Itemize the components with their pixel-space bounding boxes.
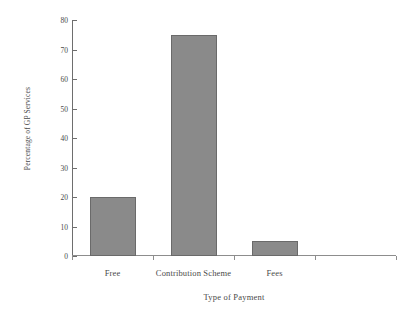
y-axis-title: Percentage of GP Services — [20, 0, 36, 256]
y-tick-mark — [73, 256, 77, 257]
y-tick-label: 50 — [61, 104, 69, 113]
y-tick-label: 0 — [64, 252, 68, 261]
x-axis-title: Type of Payment — [72, 292, 396, 302]
x-tick-label: Fees — [266, 268, 282, 278]
y-tick-label: 20 — [61, 193, 69, 202]
y-tick-label: 10 — [61, 222, 69, 231]
y-tick-mark — [73, 138, 77, 139]
x-tick-mark — [234, 256, 235, 260]
x-tick-mark — [396, 256, 397, 260]
y-axis-title-text: Percentage of GP Services — [24, 86, 33, 169]
bar — [171, 35, 217, 256]
bar — [252, 241, 298, 256]
x-tick-mark — [72, 256, 73, 260]
x-tick-label: Contribution Scheme — [156, 268, 231, 278]
y-tick-mark — [73, 50, 77, 51]
x-tick-mark — [315, 256, 316, 260]
y-tick-mark — [73, 20, 77, 21]
y-tick-label: 80 — [61, 16, 69, 25]
y-tick-mark — [73, 168, 77, 169]
y-tick-mark — [73, 197, 77, 198]
y-tick-label: 30 — [61, 163, 69, 172]
y-tick-label: 40 — [61, 134, 69, 143]
y-tick-mark — [73, 79, 77, 80]
x-tick-mark — [153, 256, 154, 260]
bar-chart-figure: Percentage of GP Services 01020304050607… — [0, 0, 414, 319]
x-tick-label: Free — [105, 268, 121, 278]
y-tick-label: 70 — [61, 45, 69, 54]
y-tick-label: 60 — [61, 75, 69, 84]
bar — [90, 197, 136, 256]
y-tick-mark — [73, 227, 77, 228]
plot-area: 01020304050607080 FreeContribution Schem… — [72, 20, 396, 256]
y-tick-mark — [73, 109, 77, 110]
